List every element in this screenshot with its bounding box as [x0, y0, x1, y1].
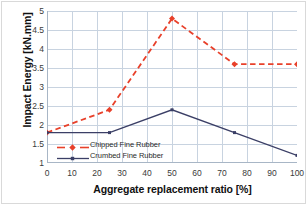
- chart-container: Impact Energy [kN.mm] Aggregate replacem…: [0, 0, 308, 206]
- legend-item-chipped: Chipped Fine Rubber: [56, 139, 184, 150]
- y-tick-label: 5: [22, 7, 44, 16]
- x-tick-label: 60: [184, 169, 210, 178]
- x-tick-label: 80: [234, 169, 260, 178]
- y-tick-label: 2.5: [22, 102, 44, 111]
- y-tick-label: 2: [22, 121, 44, 130]
- x-tick-label: 70: [209, 169, 235, 178]
- x-tick-label: 50: [159, 169, 185, 178]
- x-tick-label: 30: [109, 169, 135, 178]
- legend-item-crumbed: Crumbed Fine Rubber: [56, 150, 184, 161]
- y-tick-label: 3: [22, 83, 44, 92]
- y-tick-label: 3.5: [22, 64, 44, 73]
- x-tick-label: 10: [59, 169, 85, 178]
- x-axis-tick-labels: 0102030405060708090100: [47, 167, 297, 181]
- x-axis-title: Aggregate replacement ratio [%]: [40, 183, 305, 195]
- y-tick-label: 1: [22, 159, 44, 168]
- chart-legend: Chipped Fine Rubber Crumbed Fine Rubber: [56, 139, 184, 161]
- y-axis-tick-labels: 11.522.533.544.55: [18, 11, 44, 163]
- y-tick-label: 4: [22, 45, 44, 54]
- legend-swatch-chipped: [56, 139, 90, 150]
- x-tick-label: 90: [259, 169, 285, 178]
- x-tick-label: 40: [134, 169, 160, 178]
- legend-swatch-crumbed: [56, 150, 90, 161]
- x-tick-label: 20: [84, 169, 110, 178]
- x-tick-label: 0: [34, 169, 60, 178]
- x-tick-label: 100: [284, 169, 308, 178]
- y-tick-label: 1.5: [22, 140, 44, 149]
- legend-label-crumbed: Crumbed Fine Rubber: [90, 151, 163, 160]
- y-tick-label: 4.5: [22, 26, 44, 35]
- legend-label-chipped: Chipped Fine Rubber: [90, 140, 160, 149]
